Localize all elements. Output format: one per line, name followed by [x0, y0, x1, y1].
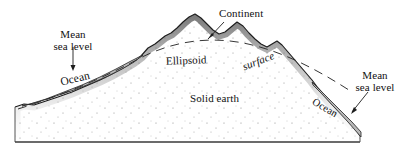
- label-continent: Continent: [219, 8, 263, 20]
- label-solid-earth: Solid earth: [190, 93, 239, 105]
- label-ellipsoid: Ellipsoid: [166, 54, 207, 67]
- label-mean-sea-level-right: Mean sea level: [344, 70, 400, 94]
- earth-cross-section-figure: Mean sea level Mean sea level Continent …: [0, 0, 400, 152]
- label-mean-sea-level-left-line2: sea level: [39, 41, 107, 53]
- mean-sea-level-right-arrow: [351, 92, 368, 114]
- label-mean-sea-level-right-line2: sea level: [344, 82, 400, 94]
- label-mean-sea-level-left: Mean sea level: [39, 29, 107, 53]
